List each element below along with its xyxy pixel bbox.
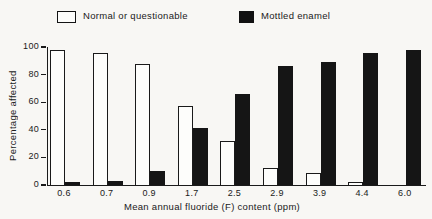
y-tick-label-100: 100 [15, 42, 39, 51]
bar-mottled-0.9 [150, 171, 165, 185]
bar-normal-3.9 [306, 173, 321, 185]
bar-group-2.9 [263, 47, 293, 185]
y-axis-title: Percentage affected [5, 47, 19, 185]
bar-normal-0.9 [135, 64, 150, 185]
y-tick-mark-0 [41, 184, 46, 185]
y-tick-mark-100 [41, 46, 46, 47]
x-label-0.7: 0.7 [90, 188, 124, 198]
x-label-3.9: 3.9 [303, 188, 337, 198]
x-label-2.9: 2.9 [260, 188, 294, 198]
legend-label-normal: Normal or questionable [83, 9, 188, 22]
x-label-0.9: 0.9 [132, 188, 166, 198]
bar-group-6.0 [391, 47, 421, 185]
bar-normal-1.7 [178, 106, 193, 185]
bar-mottled-3.9 [321, 62, 336, 185]
bar-normal-2.5 [220, 141, 235, 185]
bar-mottled-1.7 [193, 128, 208, 185]
plot-area: 020406080100 [47, 47, 426, 186]
bar-normal-2.9 [263, 168, 278, 185]
bar-normal-0.7 [93, 53, 108, 185]
y-tick-mark-80 [41, 74, 46, 75]
y-tick-label-40: 40 [15, 125, 39, 134]
y-tick-mark-60 [41, 102, 46, 103]
bar-mottled-6.0 [406, 50, 421, 185]
y-tick-label-20: 20 [15, 152, 39, 161]
x-label-0.6: 0.6 [47, 188, 81, 198]
bar-mottled-0.6 [65, 182, 80, 185]
bar-group-0.7 [93, 47, 123, 185]
x-label-4.4: 4.4 [345, 188, 379, 198]
bar-group-4.4 [348, 47, 378, 185]
bar-group-1.7 [178, 47, 208, 185]
bar-mottled-0.7 [108, 181, 123, 185]
bar-normal-4.4 [348, 182, 363, 185]
fluorosis-bar-chart-figure: Normal or questionable Mottled enamel Pe… [0, 0, 432, 219]
y-tick-label-80: 80 [15, 70, 39, 79]
x-label-1.7: 1.7 [175, 188, 209, 198]
x-label-2.5: 2.5 [217, 188, 251, 198]
y-tick-label-0: 0 [15, 180, 39, 189]
y-tick-mark-20 [41, 157, 46, 158]
bar-group-0.9 [135, 47, 165, 185]
bar-group-2.5 [220, 47, 250, 185]
bar-mottled-2.5 [235, 94, 250, 185]
legend-swatch-mottled [239, 11, 254, 23]
x-axis-title: Mean annual fluoride (F) content (ppm) [0, 201, 424, 212]
legend-swatch-normal [57, 11, 76, 23]
bar-mottled-4.4 [363, 53, 378, 185]
bar-mottled-2.9 [278, 66, 293, 185]
y-tick-label-60: 60 [15, 97, 39, 106]
bar-group-0.6 [50, 47, 80, 185]
x-label-6.0: 6.0 [388, 188, 422, 198]
bar-normal-0.6 [50, 50, 65, 185]
legend-label-mottled: Mottled enamel [261, 9, 330, 22]
y-tick-mark-40 [41, 129, 46, 130]
bar-group-3.9 [306, 47, 336, 185]
